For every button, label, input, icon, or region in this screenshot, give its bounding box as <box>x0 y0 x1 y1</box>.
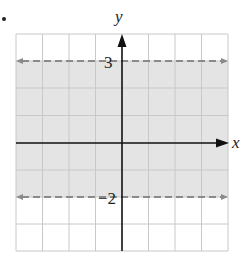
inequality-graph: x y 3 −2 <box>0 0 245 263</box>
y-axis-label: y <box>113 7 123 26</box>
lower-line-label: −2 <box>98 189 116 208</box>
x-axis-label: x <box>231 133 240 152</box>
upper-line-label: 3 <box>104 53 113 72</box>
